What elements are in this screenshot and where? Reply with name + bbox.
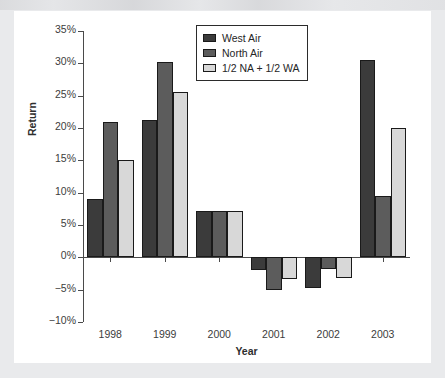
legend-label: North Air <box>222 47 263 59</box>
bar-1999-series-2 <box>173 92 189 258</box>
x-tick-label: 2001 <box>247 328 301 340</box>
y-axis-line <box>83 31 84 322</box>
y-tick-label: 25% <box>28 88 76 100</box>
y-tick-mark <box>78 290 83 291</box>
legend-swatch-icon <box>203 64 216 72</box>
y-tick-label: 35% <box>28 23 76 35</box>
bar-1998-series-1 <box>103 122 119 258</box>
bar-2002-series-2 <box>336 257 352 278</box>
bar-2001-series-1 <box>266 257 282 289</box>
y-tick-mark <box>78 225 83 226</box>
y-tick-label: 30% <box>28 55 76 67</box>
y-tick-mark <box>78 63 83 64</box>
x-axis-title: Year <box>83 345 410 357</box>
y-tick-mark <box>78 31 83 32</box>
x-tick-label: 1999 <box>138 328 192 340</box>
x-tick-label: 2000 <box>192 328 246 340</box>
y-tick-mark <box>78 257 83 258</box>
legend-label: West Air <box>222 32 261 44</box>
bar-1998-series-0 <box>87 199 103 257</box>
bar-1999-series-1 <box>157 62 173 257</box>
bar-2002-series-1 <box>321 257 337 269</box>
y-tick-mark <box>78 96 83 97</box>
y-tick-label: −10% <box>28 314 76 326</box>
x-tick-mark <box>383 257 384 262</box>
legend-label: 1/2 NA + 1/2 WA <box>222 62 300 74</box>
y-tick-label: 0% <box>28 249 76 261</box>
y-tick-mark <box>78 128 83 129</box>
x-tick-mark <box>165 257 166 262</box>
y-tick-label: 20% <box>28 120 76 132</box>
x-tick-label: 1998 <box>83 328 137 340</box>
y-tick-label: 15% <box>28 152 76 164</box>
bar-2003-series-2 <box>391 128 407 257</box>
x-tick-mark <box>110 257 111 262</box>
bar-2000-series-2 <box>227 211 243 258</box>
scan-noise-artifact <box>0 0 445 10</box>
bar-1998-series-2 <box>118 160 134 257</box>
legend-row: West Air <box>203 30 300 45</box>
y-tick-label: 5% <box>28 217 76 229</box>
y-tick-label: −5% <box>28 282 76 294</box>
y-tick-label: 10% <box>28 185 76 197</box>
bar-2002-series-0 <box>305 257 321 288</box>
y-tick-mark <box>78 193 83 194</box>
chart-legend: West AirNorth Air1/2 NA + 1/2 WA <box>196 25 308 81</box>
bar-2000-series-0 <box>196 211 212 258</box>
y-tick-mark <box>78 160 83 161</box>
x-tick-label: 2003 <box>356 328 410 340</box>
bar-2003-series-1 <box>375 196 391 257</box>
bar-1999-series-0 <box>142 120 158 257</box>
legend-row: North Air <box>203 45 300 60</box>
legend-row: 1/2 NA + 1/2 WA <box>203 60 300 75</box>
legend-swatch-icon <box>203 34 216 42</box>
x-tick-mark <box>219 257 220 262</box>
x-tick-label: 2002 <box>301 328 355 340</box>
figure-panel: Return Year 35%30%25%20%15%10%5%0%−5%−10… <box>0 0 445 378</box>
legend-swatch-icon <box>203 49 216 57</box>
bar-2001-series-2 <box>282 257 298 278</box>
bar-2000-series-1 <box>212 211 228 258</box>
bar-2001-series-0 <box>251 257 267 270</box>
bar-2003-series-0 <box>360 60 376 257</box>
y-tick-mark <box>78 322 83 323</box>
